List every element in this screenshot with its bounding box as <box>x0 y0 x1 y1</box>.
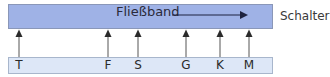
conveyor-direction-arrow-icon <box>172 11 248 19</box>
arrow-up-icon <box>246 30 253 58</box>
arrow-up-icon <box>135 30 142 58</box>
station-label: S <box>134 58 142 72</box>
arrow-up-icon <box>183 30 190 58</box>
station-label: F <box>105 58 112 72</box>
counter-label: Schalter <box>280 9 330 23</box>
arrow-up-icon <box>16 30 23 58</box>
station-label: K <box>216 58 224 72</box>
station-label: G <box>181 58 190 72</box>
station-label: T <box>15 58 22 72</box>
station-label: M <box>244 58 254 72</box>
arrow-up-icon <box>105 30 112 58</box>
arrow-up-icon <box>217 30 224 58</box>
